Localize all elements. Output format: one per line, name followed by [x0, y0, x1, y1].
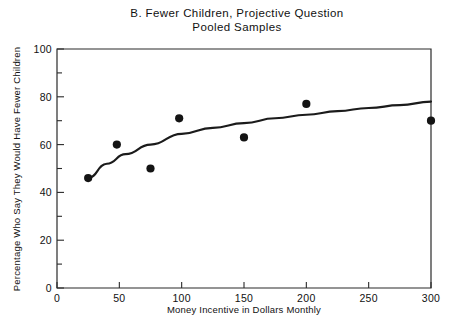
- chart-figure: B. Fewer Children, Projective Question P…: [0, 0, 455, 331]
- x-tick-label: 0: [54, 292, 60, 304]
- x-tick-label: 250: [359, 292, 377, 304]
- chart-title-line-1: B. Fewer Children, Projective Question: [130, 7, 343, 19]
- y-tick-label: 60: [40, 139, 52, 151]
- chart-title-line-2: Pooled Samples: [192, 21, 281, 33]
- data-point: [240, 133, 248, 141]
- x-tick-label: 100: [172, 292, 190, 304]
- x-tick-label: 200: [297, 292, 315, 304]
- y-axis-title: Percentage Who Say They Would Have Fewer…: [11, 47, 22, 291]
- x-axis-title: Money Incentive in Dollars Monthly: [167, 304, 321, 315]
- data-point: [175, 114, 183, 122]
- data-point: [146, 164, 154, 172]
- x-tick-label: 300: [422, 292, 440, 304]
- x-tick-label: 150: [235, 292, 253, 304]
- y-tick-label: 40: [40, 186, 52, 198]
- data-point: [84, 174, 92, 182]
- y-tick-label: 20: [40, 234, 52, 246]
- y-tick-label: 100: [34, 43, 52, 55]
- data-point: [113, 141, 121, 149]
- x-tick-label: 50: [113, 292, 125, 304]
- scatter-chart: B. Fewer Children, Projective Question P…: [0, 0, 455, 331]
- chart-background: [0, 0, 455, 331]
- data-point: [302, 100, 310, 108]
- data-point: [427, 117, 435, 125]
- y-tick-label: 0: [46, 282, 52, 294]
- y-tick-label: 80: [40, 91, 52, 103]
